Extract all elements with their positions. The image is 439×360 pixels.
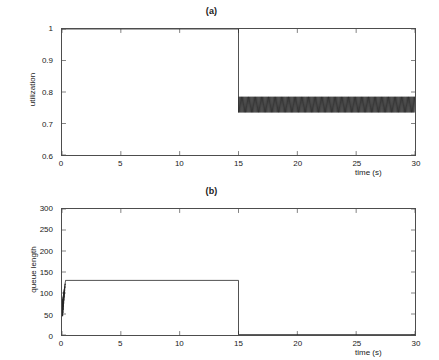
chart-b-x-axis-label: time (s) [355,348,382,357]
y-tick-label: 200 [40,246,57,255]
y-tick-label: 150 [40,268,57,277]
chart-a-x-axis-label: time (s) [355,168,382,177]
x-tick-label: 20 [293,339,302,348]
x-tick-label: 25 [352,159,361,168]
chart-a-data-line [62,29,415,155]
data-series-path [62,280,415,334]
chart-b-y-tick-labels: 050100150200250300 [0,180,57,360]
y-tick-label: 0.6 [42,152,57,161]
x-tick-label: 5 [118,339,122,348]
x-tick-label: 10 [175,339,184,348]
y-tick-label: 0.7 [42,120,57,129]
x-tick-label: 25 [352,339,361,348]
x-tick-label: 15 [234,159,243,168]
x-tick-label: 30 [412,159,421,168]
y-tick-label: 300 [40,204,57,213]
x-tick-label: 5 [118,159,122,168]
y-tick-label: 250 [40,225,57,234]
chart-panel-b: (b) queue length 050100150200250300 0510… [0,180,439,360]
data-series-path [62,29,415,112]
chart-b-title: (b) [0,186,439,196]
chart-a-title: (a) [0,6,439,16]
y-tick-label: 50 [44,310,57,319]
y-tick-label: 100 [40,289,57,298]
chart-panel-a: (a) utilization 0.60.70.80.91 0510152025… [0,0,439,180]
x-tick-label: 10 [175,159,184,168]
chart-a-plot-area [61,28,416,156]
y-tick-label: 0.8 [42,88,57,97]
chart-b-plot-area [61,208,416,336]
y-tick-label: 0.9 [42,56,57,65]
y-tick-label: 0 [49,332,57,341]
chart-a-y-tick-labels: 0.60.70.80.91 [0,0,57,180]
figure-canvas: (a) utilization 0.60.70.80.91 0510152025… [0,0,439,360]
x-tick-label: 15 [234,339,243,348]
x-tick-label: 0 [59,339,63,348]
chart-b-data-line [62,209,415,335]
x-tick-label: 20 [293,159,302,168]
x-tick-label: 0 [59,159,63,168]
x-tick-label: 30 [412,339,421,348]
y-tick-label: 1 [49,24,57,33]
